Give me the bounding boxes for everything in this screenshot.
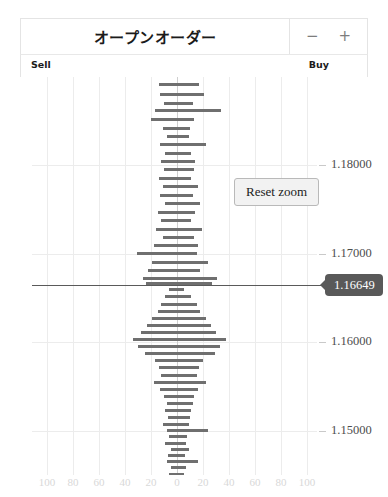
buy-bar <box>177 423 189 426</box>
buy-bar <box>177 442 186 445</box>
buy-bar <box>177 177 191 180</box>
sell-bar <box>165 295 177 298</box>
x-axis-label: 20 <box>198 476 209 488</box>
horizontal-gridline <box>32 165 317 166</box>
sell-bar <box>163 236 177 239</box>
buy-bar <box>177 473 184 475</box>
vertical-gridline <box>47 77 48 475</box>
buy-bar <box>177 202 200 205</box>
buy-bar <box>177 219 191 222</box>
buy-bar <box>177 236 194 239</box>
sell-bar <box>164 395 177 398</box>
sell-bar <box>161 374 177 377</box>
x-axis-label: 80 <box>276 476 287 488</box>
x-axis-label: 0 <box>174 476 180 488</box>
buy-bar <box>177 135 189 138</box>
buy-bar <box>177 185 198 188</box>
buy-bar <box>177 211 195 214</box>
buy-bar <box>177 244 198 247</box>
reset-zoom-button[interactable]: Reset zoom <box>234 178 319 206</box>
buy-bar <box>177 143 206 146</box>
buy-bar <box>177 160 195 163</box>
vertical-gridline <box>151 77 152 475</box>
vertical-gridline <box>203 77 204 475</box>
sell-bar <box>169 288 177 291</box>
buy-bar <box>177 388 198 391</box>
buy-bar <box>177 416 190 419</box>
buy-bar <box>177 466 186 469</box>
sell-bar <box>167 460 177 463</box>
sell-bar <box>159 83 177 86</box>
buy-bar <box>177 324 211 327</box>
widget-header: オープンオーダー − + <box>20 18 368 55</box>
vertical-gridline <box>281 77 282 475</box>
sell-bar <box>163 423 177 426</box>
buy-bar <box>177 338 226 341</box>
sell-bar <box>165 409 177 412</box>
buy-bar <box>177 359 203 362</box>
buy-bar <box>177 402 193 405</box>
x-axis-label: 60 <box>250 476 261 488</box>
sell-bar <box>155 359 177 362</box>
buy-bar <box>177 269 200 272</box>
side-legend: Sell Buy <box>20 55 368 77</box>
sell-bar <box>133 338 177 341</box>
current-price-line <box>32 285 325 287</box>
buy-bar <box>177 152 191 155</box>
sell-bar <box>168 416 177 419</box>
sell-bar <box>164 102 177 105</box>
buy-bar <box>177 109 221 112</box>
buy-bar <box>177 460 198 463</box>
sell-bar <box>145 352 178 355</box>
sell-bar <box>137 252 177 255</box>
buy-bar <box>177 127 190 130</box>
x-axis-label: 40 <box>120 476 131 488</box>
x-axis-label: 20 <box>146 476 157 488</box>
x-axis-label: 80 <box>68 476 79 488</box>
vertical-gridline <box>255 77 256 475</box>
sell-bar <box>152 317 177 320</box>
x-axis-label: 40 <box>224 476 235 488</box>
sell-bar <box>160 143 177 146</box>
sell-bar <box>161 303 177 306</box>
buy-bar <box>177 228 202 231</box>
buy-bar <box>177 83 199 86</box>
sell-bar <box>167 135 177 138</box>
legend-sell-label: Sell <box>31 59 51 70</box>
sell-bar <box>160 194 177 197</box>
sell-bar <box>167 429 177 432</box>
buy-bar <box>177 366 199 369</box>
buy-bar <box>177 261 208 264</box>
buy-bar <box>177 435 187 438</box>
sell-bar <box>158 211 178 214</box>
legend-buy-label: Buy <box>309 59 329 70</box>
buy-bar <box>177 331 216 334</box>
buy-bar <box>177 429 208 432</box>
y-axis-tick <box>319 342 326 343</box>
buy-bar <box>177 409 191 412</box>
vertical-gridline <box>99 77 100 475</box>
sell-bar <box>141 331 177 334</box>
buy-bar <box>177 303 197 306</box>
buy-bar <box>177 288 184 291</box>
sell-bar <box>164 168 177 171</box>
buy-bar <box>177 345 220 348</box>
y-axis-label: 1.15000 <box>331 423 372 438</box>
y-axis-label: 1.16000 <box>331 334 372 349</box>
buy-bar <box>177 252 197 255</box>
sell-bar <box>152 261 177 264</box>
zoom-in-icon[interactable]: + <box>334 27 355 46</box>
sell-bar <box>160 388 177 391</box>
sell-bar <box>168 454 177 457</box>
y-axis-tick <box>319 431 326 432</box>
sell-bar <box>167 402 177 405</box>
buy-bar <box>177 102 193 105</box>
chart-area[interactable]: 1.180001.170001.160001.15000 10080604020… <box>20 77 368 488</box>
zoom-out-icon[interactable]: − <box>302 27 323 46</box>
sell-bar <box>165 202 177 205</box>
chart-plot[interactable] <box>32 77 317 475</box>
x-axis-label: 60 <box>94 476 105 488</box>
vertical-gridline <box>229 77 230 475</box>
y-axis-label: 1.18000 <box>331 157 372 172</box>
buy-bar <box>177 374 197 377</box>
